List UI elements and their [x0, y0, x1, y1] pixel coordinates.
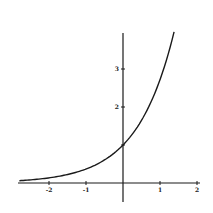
exponential-curve — [19, 32, 174, 181]
x-tick-label: 1 — [158, 186, 162, 193]
axes — [18, 33, 200, 202]
x-tick-label: 2 — [195, 186, 199, 193]
chart-canvas: -2-11223 — [0, 0, 213, 213]
data-curve — [19, 32, 174, 181]
x-tick-label: -1 — [83, 186, 90, 193]
y-tick-label: 3 — [115, 65, 119, 72]
x-tick-label: -2 — [46, 186, 53, 193]
exponential-chart: -2-11223 — [0, 0, 213, 213]
y-tick-label: 2 — [115, 103, 119, 110]
